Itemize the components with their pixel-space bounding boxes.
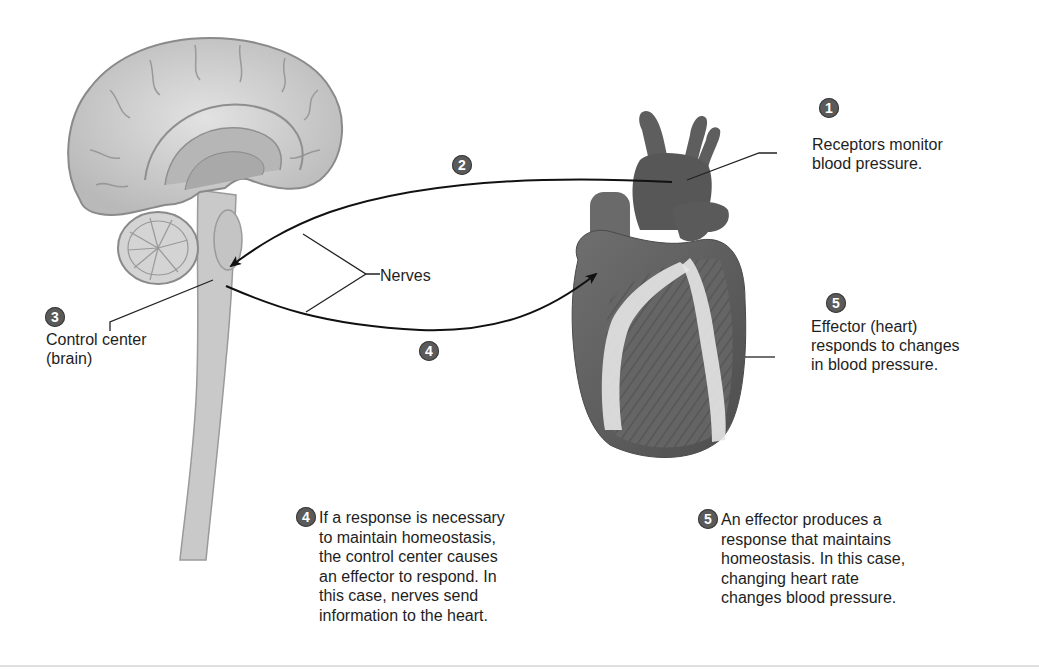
nerves-bracket-upper: [303, 234, 380, 274]
step4-caption: 4 If a response is necessary to maintain…: [319, 508, 505, 625]
step5-caption: 5 An effector produces a response that m…: [721, 510, 905, 608]
step-badge-4: 4: [419, 341, 439, 361]
nerves-label: Nerves: [380, 266, 431, 285]
step-badge-1: 1: [819, 98, 839, 118]
receptors-label: Receptors monitor blood pressure.: [812, 135, 943, 173]
step-badge-3: 3: [45, 307, 65, 327]
step5-caption-badge: 5: [698, 509, 718, 529]
heart-illustration: [572, 111, 746, 457]
cerebellum: [118, 212, 198, 284]
step-badge-5: 5: [826, 293, 846, 313]
step-badge-2: 2: [452, 155, 472, 175]
effector-label: Effector (heart) responds to changes in …: [811, 317, 960, 374]
nerves-bracket-lower: [306, 274, 366, 312]
step4-caption-badge: 4: [296, 507, 316, 527]
brain-illustration: [68, 38, 342, 560]
control-center-label: Control center (brain): [46, 330, 147, 368]
